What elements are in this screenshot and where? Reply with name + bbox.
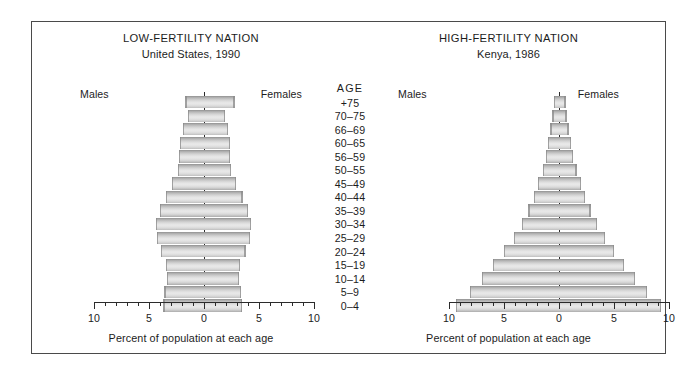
pyramid-bar bbox=[550, 123, 569, 135]
x-axis-tick-minor bbox=[171, 302, 172, 306]
pyramid-bar-females bbox=[559, 218, 598, 230]
pyramid-bar bbox=[504, 245, 614, 257]
x-axis-tick-label: 10 bbox=[299, 312, 329, 324]
pyramid-bar-males bbox=[161, 245, 204, 257]
pyramid-bar-males bbox=[160, 204, 204, 216]
x-axis-tick-major bbox=[504, 302, 505, 309]
age-group-label: 35–39 bbox=[317, 205, 383, 217]
x-axis-tick-minor bbox=[281, 302, 282, 306]
x-axis-tick-minor bbox=[471, 302, 472, 306]
x-axis-tick-minor bbox=[603, 302, 604, 306]
x-axis-tick-major bbox=[449, 302, 450, 309]
pyramid-bar-females bbox=[204, 232, 250, 244]
pyramid-bar bbox=[156, 218, 252, 230]
pyramid-bar bbox=[160, 204, 248, 216]
pyramid-bar-males bbox=[482, 272, 559, 284]
pyramid-bar bbox=[188, 110, 225, 122]
pyramid-bar-males bbox=[514, 232, 559, 244]
x-axis-tick-minor bbox=[460, 302, 461, 306]
pyramid-plot-low-fertility: 1050510 bbox=[32, 22, 350, 355]
pyramid-bar-males bbox=[164, 286, 204, 298]
pyramid-bar bbox=[185, 96, 235, 108]
pyramid-bar-males bbox=[504, 245, 559, 257]
pyramid-bar-females bbox=[204, 218, 251, 230]
age-column-heading: AGE bbox=[317, 82, 383, 94]
x-axis-tick-minor bbox=[526, 302, 527, 306]
x-axis-tick-minor bbox=[138, 302, 139, 306]
x-axis-tick-label: 10 bbox=[654, 312, 684, 324]
x-axis-tick-minor bbox=[581, 302, 582, 306]
pyramid-bar-females bbox=[559, 245, 614, 257]
pyramid-bar-males bbox=[550, 123, 559, 135]
x-axis-tick-major bbox=[669, 302, 670, 309]
pyramid-bar-males bbox=[546, 150, 559, 162]
pyramid-bar bbox=[543, 164, 577, 176]
pyramid-bar bbox=[183, 123, 228, 135]
age-group-label: 60–65 bbox=[317, 137, 383, 149]
x-axis-tick-minor bbox=[647, 302, 648, 306]
pyramid-bar-females bbox=[559, 204, 591, 216]
x-axis-tick-minor bbox=[303, 302, 304, 306]
x-axis-tick-major bbox=[314, 302, 315, 309]
x-axis-tick-minor bbox=[226, 302, 227, 306]
pyramid-bar-males bbox=[493, 259, 559, 271]
x-axis-tick-label: 5 bbox=[244, 312, 274, 324]
age-group-label: +75 bbox=[317, 97, 383, 109]
age-group-label: 0–4 bbox=[317, 300, 383, 312]
x-axis-tick-minor bbox=[182, 302, 183, 306]
x-axis-tick-minor bbox=[193, 302, 194, 306]
x-axis-tick-minor bbox=[160, 302, 161, 306]
panel-low-fertility: LOW-FERTILITY NATION United States, 1990… bbox=[32, 22, 350, 355]
axis-title-left: Percent of population at each age bbox=[32, 332, 350, 344]
pyramid-bar-males bbox=[179, 150, 204, 162]
x-axis-tick-minor bbox=[537, 302, 538, 306]
pyramid-bar-females bbox=[559, 272, 635, 284]
age-group-label: 56–59 bbox=[317, 151, 383, 163]
pyramid-bar bbox=[166, 191, 243, 203]
pyramid-bar-males bbox=[166, 191, 205, 203]
pyramid-bar-males bbox=[548, 137, 559, 149]
x-axis-tick-minor bbox=[292, 302, 293, 306]
x-axis-tick-minor bbox=[658, 302, 659, 306]
pyramid-bar-males bbox=[157, 232, 204, 244]
age-group-label: 25–29 bbox=[317, 232, 383, 244]
pyramid-bar-females bbox=[559, 150, 573, 162]
pyramid-bar-females bbox=[559, 96, 566, 108]
x-axis-tick-minor bbox=[105, 302, 106, 306]
pyramid-bar-males bbox=[543, 164, 560, 176]
figure-frame: LOW-FERTILITY NATION United States, 1990… bbox=[31, 21, 666, 354]
x-axis-tick-minor bbox=[270, 302, 271, 306]
x-axis-tick-minor bbox=[592, 302, 593, 306]
pyramid-bar bbox=[470, 286, 647, 298]
pyramid-bar-males bbox=[538, 177, 559, 189]
age-group-label: 50–55 bbox=[317, 164, 383, 176]
pyramid-bar-females bbox=[204, 150, 230, 162]
pyramid-bar-females bbox=[204, 96, 235, 108]
x-axis-tick-minor bbox=[237, 302, 238, 306]
pyramid-bar bbox=[514, 232, 605, 244]
pyramid-bar bbox=[554, 96, 566, 108]
axis-title-right: Percent of population at each age bbox=[350, 332, 667, 344]
x-axis-tick-major bbox=[259, 302, 260, 309]
pyramid-bar bbox=[167, 272, 240, 284]
x-axis-tick-minor bbox=[548, 302, 549, 306]
pyramid-bar bbox=[534, 191, 586, 203]
x-axis-tick-major bbox=[204, 302, 205, 309]
pyramid-bar-females bbox=[559, 191, 585, 203]
pyramid-bar bbox=[166, 259, 241, 271]
pyramid-bar bbox=[161, 245, 246, 257]
age-group-label: 5–9 bbox=[317, 286, 383, 298]
pyramid-bar bbox=[172, 177, 236, 189]
pyramid-bar bbox=[180, 137, 231, 149]
pyramid-bar bbox=[546, 150, 574, 162]
x-axis-tick-minor bbox=[625, 302, 626, 306]
x-axis-tick-major bbox=[149, 302, 150, 309]
pyramid-bar bbox=[548, 137, 571, 149]
pyramid-bar-males bbox=[522, 218, 559, 230]
pyramid-bar bbox=[157, 232, 251, 244]
x-axis-tick-major bbox=[559, 302, 560, 309]
age-group-label: 66–69 bbox=[317, 124, 383, 136]
x-axis-tick-label: 5 bbox=[599, 312, 629, 324]
pyramid-bar-females bbox=[204, 110, 225, 122]
pyramid-bar-females bbox=[204, 259, 240, 271]
